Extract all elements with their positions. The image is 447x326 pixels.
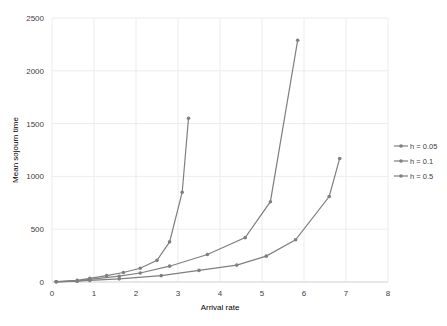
data-point-marker: [138, 266, 142, 270]
legend-item: h = 0.05: [394, 142, 437, 151]
y-tick-label: 2000: [26, 67, 44, 76]
data-point-marker: [197, 269, 201, 273]
series-line: [54, 157, 341, 284]
x-tick-label: 1: [92, 289, 97, 298]
data-point-marker: [294, 238, 298, 242]
data-point-marker: [138, 271, 142, 275]
x-tick-label: 6: [302, 289, 307, 298]
data-point-marker: [243, 236, 247, 240]
data-point-marker: [88, 277, 92, 281]
legend: h = 0.05h = 0.1h = 0.5: [394, 142, 437, 181]
line-chart: 05001000150020002500 012345678 Arrival r…: [0, 0, 447, 326]
data-series: [54, 38, 341, 283]
data-point-marker: [264, 254, 268, 258]
data-point-marker: [206, 253, 210, 257]
data-point-marker: [159, 274, 163, 278]
x-tick-label: 3: [176, 289, 181, 298]
data-point-marker: [235, 263, 239, 267]
x-tick-label: 7: [344, 289, 349, 298]
legend-label: h = 0.5: [410, 172, 433, 181]
data-point-marker: [117, 274, 121, 278]
legend-item: h = 0.1: [394, 157, 433, 166]
grid-lines: [52, 18, 388, 282]
data-point-marker: [105, 274, 109, 278]
y-tick-label: 2500: [26, 14, 44, 23]
x-axis-ticks: 012345678: [50, 289, 391, 298]
data-point-marker: [187, 117, 191, 121]
data-point-marker: [168, 240, 172, 244]
y-tick-label: 1000: [26, 172, 44, 181]
series-line: [54, 117, 190, 284]
x-axis-title: Arrival rate: [201, 303, 240, 312]
data-point-marker: [296, 38, 300, 42]
data-point-marker: [75, 279, 79, 283]
x-tick-label: 2: [134, 289, 139, 298]
x-tick-label: 0: [50, 289, 55, 298]
series-line: [54, 38, 299, 283]
x-tick-label: 8: [386, 289, 391, 298]
x-tick-label: 5: [260, 289, 265, 298]
y-tick-label: 500: [31, 225, 45, 234]
y-tick-label: 0: [40, 278, 45, 287]
data-point-marker: [54, 280, 58, 284]
legend-label: h = 0.1: [410, 157, 433, 166]
y-axis-title: Mean sojourn time: [11, 117, 20, 183]
data-point-marker: [168, 264, 172, 268]
legend-label: h = 0.05: [410, 142, 437, 151]
data-point-marker: [327, 195, 331, 199]
data-point-marker: [122, 271, 126, 275]
x-tick-label: 4: [218, 289, 223, 298]
y-tick-label: 1500: [26, 120, 44, 129]
data-point-marker: [155, 259, 159, 263]
data-point-marker: [338, 157, 342, 161]
data-point-marker: [269, 200, 273, 204]
data-point-marker: [180, 190, 184, 194]
legend-item: h = 0.5: [394, 172, 433, 181]
y-axis-ticks: 05001000150020002500: [26, 14, 44, 287]
